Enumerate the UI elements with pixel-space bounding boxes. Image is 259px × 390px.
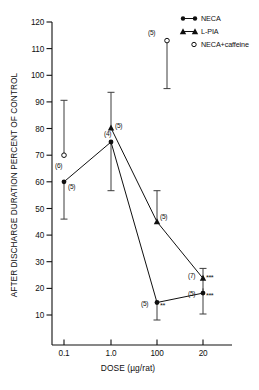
marker-caffeine-0-1[interactable] <box>62 153 67 158</box>
error-bars <box>61 41 207 320</box>
label-neca-0-1-n: (5) <box>68 183 75 191</box>
label-neca-1-0-n: (4) <box>104 130 111 138</box>
significance-marks: ** *** *** <box>160 273 214 310</box>
y-tick-label-10: 10 <box>35 311 44 320</box>
y-axis: 120 110 100 90 80 70 60 50 40 30 20 10 A… <box>9 18 52 345</box>
sig-lpia-20: *** <box>206 273 214 282</box>
marker-neca-100[interactable] <box>155 300 160 305</box>
x-tick-label-1-0: 1.0 <box>106 349 117 358</box>
y-tick-label-50: 50 <box>35 205 44 214</box>
label-lpia-100-n: (5) <box>160 213 167 221</box>
marker-neca-1-0[interactable] <box>109 140 114 145</box>
marker-caffeine-100[interactable] <box>165 38 170 43</box>
y-tick-label-120: 120 <box>31 18 45 27</box>
legend-marker-neca-left <box>181 16 185 20</box>
label-neca-20-n: (5) <box>188 290 195 298</box>
series-lines <box>64 128 203 303</box>
y-tick-label-90: 90 <box>35 98 44 107</box>
y-tick-label-30: 30 <box>35 258 44 267</box>
legend-label-neca-caffeine: NECA+caffeine <box>201 40 249 49</box>
y-tick-label-80: 80 <box>35 125 44 134</box>
legend-marker-neca-right <box>193 16 197 20</box>
y-tick-label-60: 60 <box>35 178 44 187</box>
series-line-neca <box>64 142 203 303</box>
y-tick-label-20: 20 <box>35 284 44 293</box>
label-lpia-20-n: (7) <box>188 272 195 280</box>
x-tick-label-20: 20 <box>199 349 208 358</box>
chart-canvas: 120 110 100 90 80 70 60 50 40 30 20 10 A… <box>0 0 259 390</box>
legend: NECA L-PIA NECA+caffeine <box>180 14 249 49</box>
x-tick-label-0-1: 0.1 <box>59 349 70 358</box>
point-labels: (6) (5) (5) (4) (5) (5) (5) (7) (5) <box>55 29 195 308</box>
legend-label-neca: NECA <box>201 14 221 23</box>
y-axis-title: AFTER DISCHARGE DURATION PERCENT OF CONT… <box>9 72 19 297</box>
label-neca-100-n: (5) <box>141 300 148 308</box>
sig-neca-100: ** <box>160 301 165 310</box>
y-tick-label-110: 110 <box>32 45 45 54</box>
data-markers <box>62 38 207 305</box>
legend-label-lpia: L-PIA <box>201 27 219 36</box>
y-tick-label-100: 100 <box>31 71 45 80</box>
legend-marker-caffeine <box>192 42 196 46</box>
y-tick-label-40: 40 <box>35 231 44 240</box>
label-caffeine-100-n: (5) <box>148 29 155 37</box>
legend-item-lpia[interactable]: L-PIA <box>180 27 219 36</box>
sig-neca-20: *** <box>206 291 214 300</box>
x-axis: 0.1 1.0 100 20 DOSE (µg/rat) <box>52 340 232 374</box>
y-tick-label-70: 70 <box>35 151 44 160</box>
marker-neca-0-1[interactable] <box>62 179 67 184</box>
legend-item-neca-caffeine[interactable]: NECA+caffeine <box>192 40 249 49</box>
afterdischarge-duration-chart: 120 110 100 90 80 70 60 50 40 30 20 10 A… <box>0 0 259 390</box>
label-lpia-1-0-n: (5) <box>115 122 122 130</box>
legend-item-neca[interactable]: NECA <box>181 14 221 23</box>
x-axis-title: DOSE (µg/rat) <box>101 363 156 373</box>
label-caffeine-0-1-n: (6) <box>55 162 62 170</box>
marker-neca-20[interactable] <box>201 291 206 296</box>
x-tick-label-100: 100 <box>150 349 164 358</box>
